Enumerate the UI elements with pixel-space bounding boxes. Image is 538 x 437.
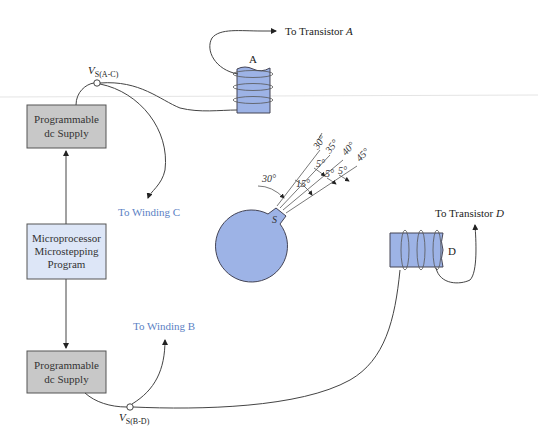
supply-top-line2: dc Supply [44,127,89,139]
supply-bottom-line1: Programmable [34,359,99,371]
node-vs-ac [94,80,100,86]
step-label-3: 5° [338,165,347,176]
wire-to-winding-c [100,84,166,198]
micro-line2: Microstepping [34,245,99,257]
supply-bottom-line2: dc Supply [44,373,89,385]
coil-d-label: D [448,245,456,257]
wire-to-coil-d [133,270,400,408]
angle-rays: 30° 35° 40° 45° 5° 5° 5° 15° 30° [258,133,371,213]
supply-top-line1: Programmable [34,113,99,125]
to-winding-b-label: To Winding B [133,320,195,332]
microprocessor-block: Microprocessor Microstepping Program [27,224,106,279]
step-label-1: 5° [316,158,325,169]
programmable-supply-bottom: Programmable dc Supply [27,351,106,393]
coil-a-label: A [249,53,257,65]
to-winding-c-label: To Winding C [118,206,180,218]
rotor: S [216,208,288,282]
wire-supply-top-to-node [76,83,94,105]
total-step-label: 15° [296,178,310,189]
stepper-microstepping-diagram: Programmable dc Supply Microprocessor Mi… [0,0,538,437]
node-vs-bd-label: VS(B-D) [119,411,150,426]
step-label-2: 5° [325,168,334,179]
start-angle-label: 30° [261,173,276,184]
rotor-pole-label: S [272,214,277,225]
wire-supply-bottom-to-node [85,393,127,407]
node-vs-bd [127,404,133,410]
to-transistor-d-label: To Transistor D [435,207,504,219]
wire-to-winding-b [132,340,165,404]
micro-line1: Microprocessor [32,232,101,244]
to-transistor-a-label: To Transistor A [285,25,353,37]
coil-d: D [390,230,456,270]
micro-line3: Program [48,258,86,270]
coil-a: A [233,53,273,113]
ray-label-45: 45° [354,146,372,164]
programmable-supply-top: Programmable dc Supply [27,105,106,148]
node-vs-ac-label: VS(A-C) [88,64,119,79]
